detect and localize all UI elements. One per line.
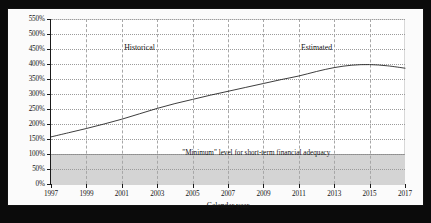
x-tick-label: 2017 bbox=[398, 190, 412, 198]
y-tick-label: 0% bbox=[36, 180, 45, 188]
x-tick-mark bbox=[193, 184, 194, 188]
x-tick-mark bbox=[405, 184, 406, 188]
x-tick-label: 2011 bbox=[292, 190, 306, 198]
x-tick-label: 2005 bbox=[186, 190, 200, 198]
y-tick-label: 500% bbox=[29, 30, 45, 38]
y-tick-label: 50% bbox=[32, 165, 45, 173]
x-tick-label: 2009 bbox=[256, 190, 270, 198]
x-tick-label: 2001 bbox=[115, 190, 129, 198]
plot-area: 0%50%100%150%200%250%300%350%400%450%500… bbox=[50, 19, 405, 185]
x-tick-mark bbox=[86, 184, 87, 188]
x-tick-mark bbox=[228, 184, 229, 188]
x-tick-label: 2015 bbox=[363, 190, 377, 198]
minimum-level-note: "Minimum" level for short-term financial… bbox=[182, 149, 330, 157]
x-tick-mark bbox=[334, 184, 335, 188]
region-label-historical: Historical bbox=[124, 43, 155, 52]
y-tick-label: 150% bbox=[29, 135, 45, 143]
figure-frame: 0%50%100%150%200%250%300%350%400%450%500… bbox=[0, 0, 431, 223]
y-tick-label: 100% bbox=[29, 150, 45, 158]
x-tick-mark bbox=[299, 184, 300, 188]
region-label-estimated: Estimated bbox=[301, 43, 332, 52]
x-tick-mark bbox=[263, 184, 264, 188]
x-tick-label: 1997 bbox=[44, 190, 58, 198]
x-tick-mark bbox=[122, 184, 123, 188]
series-line-trust-fund-ratio bbox=[51, 19, 405, 184]
y-tick-label: 400% bbox=[29, 60, 45, 68]
x-axis-title: Calendar year bbox=[51, 201, 405, 210]
y-tick-label: 350% bbox=[29, 75, 45, 83]
x-tick-label: 2007 bbox=[221, 190, 235, 198]
x-tick-mark bbox=[157, 184, 158, 188]
x-tick-label: 2003 bbox=[150, 190, 164, 198]
y-tick-label: 550% bbox=[29, 15, 45, 23]
y-tick-label: 250% bbox=[29, 105, 45, 113]
y-tick-label: 200% bbox=[29, 120, 45, 128]
x-tick-label: 2013 bbox=[327, 190, 341, 198]
chart-canvas: 0%50%100%150%200%250%300%350%400%450%500… bbox=[8, 9, 423, 205]
x-tick-label: 1999 bbox=[79, 190, 93, 198]
x-tick-mark bbox=[51, 184, 52, 188]
y-tick-label: 450% bbox=[29, 45, 45, 53]
x-tick-mark bbox=[370, 184, 371, 188]
y-tick-label: 300% bbox=[29, 90, 45, 98]
